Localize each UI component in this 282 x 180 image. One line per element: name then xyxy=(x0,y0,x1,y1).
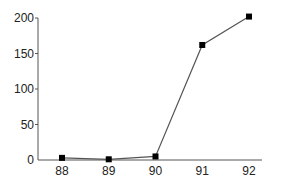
series-line xyxy=(62,17,249,160)
data-point-marker xyxy=(153,153,159,159)
y-tick-label: 200 xyxy=(14,11,34,25)
data-point-marker xyxy=(59,155,65,161)
plot-area xyxy=(59,14,252,163)
line-chart: 0501001502008889909192 xyxy=(0,0,282,180)
x-tick-label: 88 xyxy=(55,164,69,178)
x-tick-label: 90 xyxy=(149,164,163,178)
data-point-marker xyxy=(106,156,112,162)
data-point-marker xyxy=(199,42,205,48)
x-tick-label: 92 xyxy=(242,164,256,178)
y-tick-label: 50 xyxy=(21,118,35,132)
data-point-marker xyxy=(246,14,252,20)
x-tick-label: 89 xyxy=(102,164,116,178)
y-tick-label: 150 xyxy=(14,47,34,61)
x-tick-label: 91 xyxy=(196,164,210,178)
axes: 0501001502008889909192 xyxy=(14,11,262,178)
y-tick-label: 0 xyxy=(27,153,34,167)
y-tick-label: 100 xyxy=(14,82,34,96)
